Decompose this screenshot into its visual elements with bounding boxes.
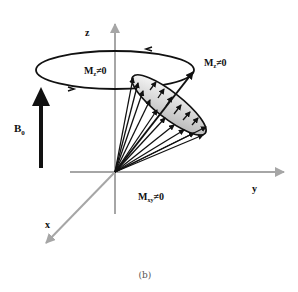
orbit-arrow-top-icon	[146, 47, 152, 51]
orbit-arrow-bottom-icon	[68, 87, 74, 91]
z-axis-label: z	[85, 27, 90, 38]
b0-arrow	[32, 87, 50, 168]
mz-outer-label: Mz≠0	[204, 57, 227, 69]
x-axis	[46, 172, 115, 243]
mz-inner-label: Mz≠0	[84, 65, 107, 77]
spin-cone	[115, 66, 213, 172]
y-axis-label: y	[252, 183, 257, 194]
b0-label: B0	[14, 122, 25, 137]
figure-caption: (b)	[139, 270, 152, 280]
precession-diagram: z y x B0	[0, 0, 298, 292]
mxy-label: Mxy≠0	[138, 191, 164, 203]
x-axis-label: x	[45, 219, 50, 230]
axes	[46, 24, 284, 243]
